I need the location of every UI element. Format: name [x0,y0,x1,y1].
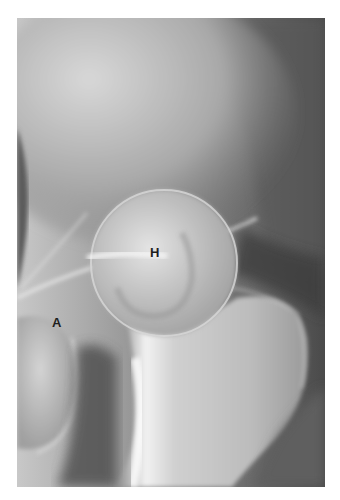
label-femoral-head: H [150,246,159,259]
hip-radiograph: H A [17,18,325,487]
label-acetabulum: A [52,316,61,329]
radiograph-graphic [17,18,325,487]
